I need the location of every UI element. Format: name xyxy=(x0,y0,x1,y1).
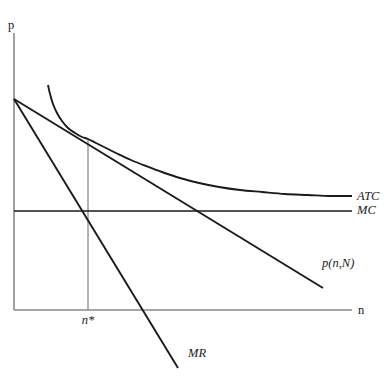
chart-background xyxy=(0,0,390,376)
figure-root: p n ATC MC p(n,N) MR n* xyxy=(0,0,390,376)
atc-label: ATC xyxy=(356,189,380,203)
mr-curve-label: MR xyxy=(187,346,206,360)
y-axis-label: p xyxy=(8,18,14,32)
demand-curve-label: p(n,N) xyxy=(321,256,354,270)
x-axis-label: n xyxy=(358,303,365,317)
mc-label: MC xyxy=(356,203,376,217)
economics-diagram-svg: p n ATC MC p(n,N) MR n* xyxy=(0,0,390,376)
n-star-tick-label: n* xyxy=(82,313,95,327)
